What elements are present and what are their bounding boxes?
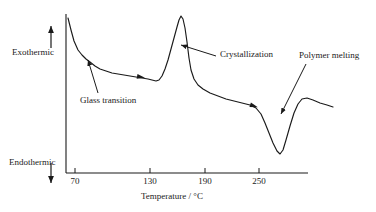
x-tick-label-190: 190 <box>192 177 218 186</box>
annotation-label-polymer-melting: Polymer melting <box>299 51 359 60</box>
dsc-thermogram-figure: 70 130 190 250 Temperature / °C Exotherm… <box>0 0 376 212</box>
x-axis-title: Temperature / °C <box>141 192 203 201</box>
annotation-label-crystallization: Crystallization <box>220 50 273 59</box>
endothermic-label: Endothermic <box>9 158 56 167</box>
curve-arrowhead-1 <box>249 102 258 109</box>
x-tick-label-250: 250 <box>246 177 272 186</box>
curve-arrowhead-0 <box>137 74 146 80</box>
x-tick-label-130: 130 <box>137 177 163 186</box>
x-tick-label-70: 70 <box>62 177 88 186</box>
dsc-curve <box>68 16 333 154</box>
annotation-label-glass-transition: Glass transition <box>80 96 136 105</box>
x-axis-ticks <box>75 168 259 173</box>
annotation-arrow-polymer-melting <box>281 64 306 114</box>
exothermic-label: Exothermic <box>12 48 54 57</box>
axis-lines <box>66 14 308 173</box>
annotation-arrow-crystallization <box>181 45 216 56</box>
curve-direction-arrowheads <box>137 74 259 110</box>
plot-svg <box>0 0 376 212</box>
